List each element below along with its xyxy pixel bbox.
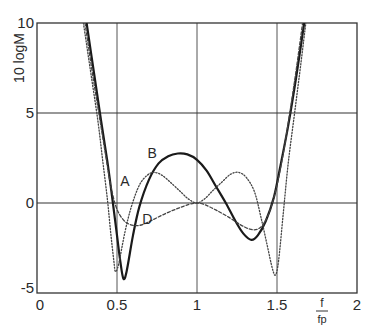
- x-tick-label: 1: [193, 296, 201, 313]
- y-axis-label: 10 logM: [11, 33, 27, 83]
- curve-label-B: B: [148, 145, 157, 161]
- y-tick-label: -5: [21, 279, 34, 296]
- x-axis-ticks: 00.511.52: [36, 296, 361, 313]
- svg-text:fp: fp: [317, 313, 326, 325]
- gridlines: [37, 23, 357, 293]
- line-chart: 00.511.52 -50510 ABD 10 logM f fp: [0, 0, 379, 336]
- y-tick-label: 5: [26, 104, 34, 121]
- x-tick-label: 1.5: [267, 296, 288, 313]
- y-tick-label: 0: [26, 194, 34, 211]
- x-axis-label: f fp: [316, 296, 328, 325]
- curve-label-D: D: [142, 211, 152, 227]
- x-tick-label: 0.5: [107, 296, 128, 313]
- series-B: [87, 23, 305, 279]
- y-tick-label: 10: [17, 14, 34, 31]
- svg-text:f: f: [320, 296, 324, 310]
- x-tick-label: 0: [36, 296, 44, 313]
- series-D: [85, 23, 303, 230]
- curve-label-A: A: [120, 173, 130, 189]
- x-tick-label: 2: [353, 296, 361, 313]
